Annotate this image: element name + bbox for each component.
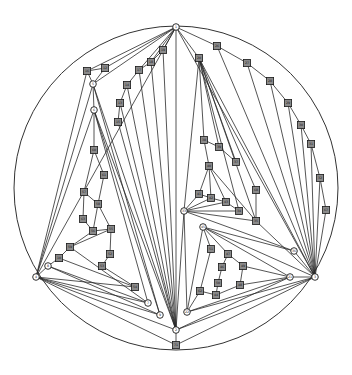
graph-node-n6: 48 bbox=[236, 281, 243, 288]
graph-node-botsq: 71 bbox=[172, 341, 179, 348]
node-label: 33 bbox=[182, 209, 186, 213]
graph-edge bbox=[184, 211, 187, 312]
node-label: 47 bbox=[226, 252, 230, 256]
node-label: 16 bbox=[85, 69, 89, 73]
graph-node-n2: 47 bbox=[224, 250, 231, 257]
node-label: 50 bbox=[216, 281, 220, 285]
graph-edge bbox=[199, 58, 315, 277]
graph-edge bbox=[98, 175, 104, 204]
graph-node-c4: 14 bbox=[123, 81, 130, 88]
graph-node-r5: 29 bbox=[284, 99, 291, 106]
nodes-layer: 1271431612561918171413156061575863565552… bbox=[33, 24, 330, 349]
graph-edge bbox=[163, 50, 176, 330]
graph-edge bbox=[36, 277, 176, 330]
graph-edge bbox=[199, 166, 209, 194]
node-label: 14 bbox=[125, 83, 129, 87]
node-label: 34 bbox=[237, 209, 241, 213]
node-label: 8 bbox=[47, 264, 49, 268]
node-label: 42 bbox=[209, 196, 213, 200]
node-label: 41 bbox=[197, 192, 201, 196]
graph-node-n1: 51 bbox=[207, 245, 214, 252]
graph-node-i9: 59 bbox=[66, 243, 73, 250]
graph-edge bbox=[184, 211, 294, 251]
graph-node-i8: 52 bbox=[106, 250, 113, 257]
node-label: 62 bbox=[198, 289, 202, 293]
graph-edge bbox=[83, 192, 84, 219]
graph-node-r1: 26 bbox=[213, 42, 220, 49]
node-label: 18 bbox=[149, 60, 153, 64]
graph-edge bbox=[59, 258, 135, 287]
graph-node-n4: 49 bbox=[239, 262, 246, 269]
node-label: 44 bbox=[214, 293, 218, 297]
node-label: 38 bbox=[202, 138, 206, 142]
graph-node-m4: 40 bbox=[205, 162, 212, 169]
node-label: 13 bbox=[118, 101, 122, 105]
node-label: 54 bbox=[133, 285, 137, 289]
graph-node-m10: 35 bbox=[252, 217, 259, 224]
graph-node-r8: 32 bbox=[316, 174, 323, 181]
graph-edge bbox=[48, 266, 160, 315]
graph-node-c5: 13 bbox=[116, 99, 123, 106]
node-label: 48 bbox=[238, 283, 242, 287]
node-label: 30 bbox=[299, 123, 303, 127]
node-label: 22 bbox=[185, 310, 189, 314]
graph-node-i2: 61 bbox=[100, 171, 107, 178]
node-label: 26 bbox=[215, 44, 219, 48]
graph-node-i10: 10 bbox=[55, 254, 62, 261]
node-label: 31 bbox=[309, 142, 313, 146]
node-label: 32 bbox=[318, 176, 322, 180]
graph-edge bbox=[184, 211, 256, 221]
graph-edge bbox=[243, 266, 290, 277]
node-label: 1 bbox=[175, 25, 177, 29]
node-label: 55 bbox=[109, 227, 113, 231]
graph-node-i15: 9 bbox=[157, 312, 164, 319]
graph-node-l1: 16 bbox=[83, 67, 90, 74]
node-label: 4 bbox=[35, 275, 37, 279]
graph-node-i11: 8 bbox=[45, 263, 52, 270]
graph-edge bbox=[176, 211, 184, 330]
graph-node-n8: 44 bbox=[212, 291, 219, 298]
graph-node-i12: 53 bbox=[98, 262, 105, 269]
node-label: 15 bbox=[116, 120, 120, 124]
graph-node-nh: 21 bbox=[287, 274, 294, 281]
node-label: 37 bbox=[234, 160, 238, 164]
graph-edge bbox=[93, 204, 98, 231]
graph-edge bbox=[176, 27, 199, 58]
graph-edge bbox=[151, 62, 176, 330]
graph-node-i13: 54 bbox=[131, 283, 138, 290]
graph-node-m3: 37 bbox=[232, 158, 239, 165]
graph-node-i7: 55 bbox=[107, 225, 114, 232]
graph-diagram: 1271431612561918171413156061575863565552… bbox=[0, 0, 352, 375]
node-label: 17 bbox=[137, 68, 141, 72]
graph-node-c2: 18 bbox=[147, 58, 154, 65]
node-label: 36 bbox=[292, 249, 296, 253]
node-label: 68 bbox=[254, 188, 258, 192]
graph-node-right: 3 bbox=[312, 274, 319, 281]
graph-edge bbox=[203, 227, 228, 254]
node-label: 6 bbox=[93, 108, 95, 112]
graph-node-m7: 42 bbox=[207, 194, 214, 201]
node-label: 7 bbox=[147, 301, 149, 305]
node-label: 52 bbox=[108, 252, 112, 256]
graph-node-i4: 58 bbox=[94, 200, 101, 207]
node-label: 5 bbox=[92, 82, 94, 86]
node-label: 20 bbox=[197, 56, 201, 60]
graph-edge bbox=[184, 198, 211, 211]
graph-node-l4: 6 bbox=[91, 107, 98, 114]
node-label: 2 bbox=[175, 328, 177, 332]
graph-node-r4: 28 bbox=[266, 77, 273, 84]
graph-edge bbox=[184, 58, 199, 211]
node-label: 71 bbox=[174, 343, 178, 347]
graph-node-c3: 17 bbox=[135, 66, 142, 73]
graph-node-n7: 62 bbox=[196, 287, 203, 294]
graph-node-m2: 39 bbox=[215, 143, 222, 150]
node-label: 60 bbox=[92, 148, 96, 152]
graph-edge bbox=[200, 249, 211, 291]
graph-node-l3: 5 bbox=[90, 81, 97, 88]
graph-node-n3: 46 bbox=[218, 263, 225, 270]
node-label: 57 bbox=[82, 190, 86, 194]
graph-node-l2: 12 bbox=[101, 64, 108, 71]
node-label: 56 bbox=[91, 229, 95, 233]
node-label: 28 bbox=[268, 79, 272, 83]
node-label: 61 bbox=[102, 173, 106, 177]
